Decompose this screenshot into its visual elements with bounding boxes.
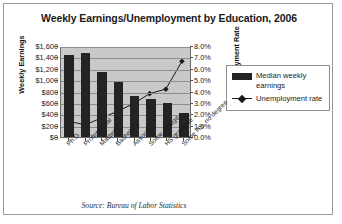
line-marker-7 (179, 59, 185, 65)
y-axis-left: $0$200$400$600$800$1,000$1,200$1,400$1,6… (8, 47, 58, 138)
legend-label-unemployment: Unemployment rate (256, 94, 322, 104)
source-note: Source: Bureau of Labor Statistics (4, 201, 264, 210)
y-axis-right-tick: 0.0% (194, 133, 226, 142)
y-axis-left-tickmark (55, 92, 58, 93)
y-axis-left-tickmark (55, 114, 58, 115)
y-axis-right-tick: 8.0% (194, 42, 226, 51)
chart-title: Weekly Earnings/Unemployment by Educatio… (4, 12, 334, 24)
y-axis-left-tickmark (55, 46, 58, 47)
legend-item-earnings: Median weekly earnings (232, 71, 328, 90)
y-axis-left-tickmark (55, 69, 58, 70)
y-axis-left-label: Weekly Earnings (17, 27, 26, 103)
y-axis-left-tick: $200 (12, 122, 58, 131)
line-marker-swatch-icon (232, 94, 252, 103)
chart-frame: Weekly Earnings/Unemployment by Educatio… (3, 3, 333, 215)
bar-swatch-icon (232, 73, 252, 80)
y-axis-left-tick: $400 (12, 110, 58, 119)
y-axis-right-tick: 5.0% (194, 76, 226, 85)
line-marker-6 (163, 86, 169, 92)
legend-label-earnings: Median weekly earnings (256, 71, 328, 90)
chart-legend: Median weekly earnings Unemployment rate (226, 65, 330, 111)
y-axis-left-tick: $0 (12, 133, 58, 142)
y-axis-left-tickmark (55, 80, 58, 81)
legend-item-unemployment: Unemployment rate (232, 94, 328, 104)
y-axis-right-tick: 6.0% (194, 65, 226, 74)
bar-0 (64, 55, 74, 137)
y-axis-left-tickmark (55, 103, 58, 104)
bar-1 (81, 53, 91, 137)
y-axis-left-tickmark (55, 126, 58, 127)
y-axis-left-tickmark (55, 57, 58, 58)
y-axis-right-tick: 4.0% (194, 88, 226, 97)
y-axis-right-tick: 7.0% (194, 53, 226, 62)
y-axis-left-tickmark (55, 137, 58, 138)
gridline (61, 47, 190, 48)
